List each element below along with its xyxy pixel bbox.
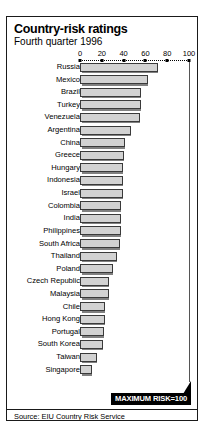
bar-row: Venezuela — [7, 112, 198, 125]
chart-title: Country-risk ratings — [14, 22, 127, 36]
bar-row: Hungary — [7, 163, 198, 176]
maximum-risk-label: MAXIMUM RISK=100 — [111, 393, 191, 405]
bar-row: Hong Kong — [7, 314, 198, 327]
footer-divider — [7, 409, 197, 410]
bar-row: Turkey — [7, 100, 198, 113]
bar-row: Colombia — [7, 201, 198, 214]
bar-shadow — [82, 109, 141, 111]
category-label: Greece — [55, 150, 80, 160]
bar-row: Brazil — [7, 87, 198, 100]
category-label: Chile — [63, 302, 80, 312]
bar — [80, 63, 158, 72]
category-label: Russia — [57, 62, 80, 72]
bar-row: South Korea — [7, 339, 198, 352]
bar-row: Thailand — [7, 251, 198, 264]
bar-row: Greece — [7, 150, 198, 163]
bar-row: Indonesia — [7, 175, 198, 188]
bar-shadow — [82, 135, 131, 137]
bar — [80, 138, 125, 147]
bar — [80, 226, 121, 235]
bar-shadow — [82, 172, 123, 174]
category-label: Brazil — [61, 87, 80, 97]
bar-row: Mexico — [7, 75, 198, 88]
bar-shadow — [82, 147, 125, 149]
bar-shadow — [82, 223, 121, 225]
chart-figure: Country-risk ratings Fourth quarter 1996… — [6, 16, 198, 421]
bar — [80, 176, 123, 185]
bar — [80, 201, 121, 210]
bar-shadow — [82, 349, 103, 351]
bar-shadow — [82, 84, 148, 86]
bar-shadow — [82, 122, 140, 124]
category-label: India — [64, 213, 80, 223]
chart-subtitle: Fourth quarter 1996 — [14, 36, 102, 47]
bar — [80, 239, 120, 248]
x-tick-label: 60 — [141, 49, 149, 58]
category-label: South Korea — [38, 339, 80, 349]
bar-row: Portugal — [7, 327, 198, 340]
bar — [80, 88, 141, 97]
source-note: Source: EIU Country Risk Service — [14, 412, 125, 421]
category-label: Philippines — [43, 226, 80, 236]
bar-shadow — [82, 235, 121, 237]
bar-shadow — [82, 198, 123, 200]
bar — [80, 126, 131, 135]
category-label: Taiwan — [56, 352, 80, 362]
bar — [80, 264, 113, 273]
bar-row: Singapore — [7, 365, 198, 378]
bar — [80, 100, 141, 109]
bar — [80, 302, 105, 311]
bar-row: Israel — [7, 188, 198, 201]
bar — [80, 252, 117, 261]
category-label: Poland — [56, 264, 80, 274]
category-label: Hong Kong — [42, 314, 80, 324]
bar-shadow — [82, 160, 124, 162]
category-label: Czech Republic — [27, 276, 80, 286]
bar-row: Taiwan — [7, 352, 198, 365]
bar — [80, 353, 97, 362]
category-label: Argentina — [47, 125, 80, 135]
x-tick-label: 20 — [98, 49, 106, 58]
bar — [80, 315, 105, 324]
bar-shadow — [82, 311, 105, 313]
plot-area: RussiaMexicoBrazilTurkeyVenezuelaArgenti… — [7, 62, 198, 392]
bar-shadow — [82, 374, 92, 376]
bar-shadow — [82, 210, 121, 212]
bar-shadow — [82, 362, 97, 364]
x-tick-label: 100 — [183, 49, 196, 58]
category-label: Venezuela — [45, 112, 80, 122]
category-label: Israel — [61, 188, 80, 198]
category-label: Portugal — [52, 327, 80, 337]
category-label: Malaysia — [50, 289, 80, 299]
category-label: South Africa — [39, 239, 80, 249]
bar — [80, 289, 109, 298]
bar-shadow — [82, 336, 104, 338]
bar-shadow — [82, 298, 109, 300]
bar-shadow — [82, 261, 117, 263]
category-label: Thailand — [51, 251, 80, 261]
category-label: Colombia — [48, 201, 80, 211]
bar — [80, 189, 123, 198]
bar — [80, 75, 148, 84]
bar-row: Czech Republic — [7, 276, 198, 289]
bar-row: India — [7, 213, 198, 226]
bar-row: Philippines — [7, 226, 198, 239]
bar-shadow — [82, 185, 123, 187]
bar — [80, 163, 123, 172]
category-label: China — [60, 138, 80, 148]
category-label: Turkey — [57, 100, 80, 110]
category-label: Mexico — [56, 75, 80, 85]
bar — [80, 151, 124, 160]
bar — [80, 327, 104, 336]
bar-row: Russia — [7, 62, 198, 75]
bar-row: Poland — [7, 264, 198, 277]
bar-row: South Africa — [7, 239, 198, 252]
bar-shadow — [82, 248, 120, 250]
bar — [80, 277, 109, 286]
maximum-risk-callout: MAXIMUM RISK=100 — [111, 393, 191, 405]
bar-shadow — [82, 97, 141, 99]
bar-shadow — [82, 324, 105, 326]
x-tick-label: 40 — [119, 49, 127, 58]
bar-shadow — [82, 286, 109, 288]
bar-row: Malaysia — [7, 289, 198, 302]
